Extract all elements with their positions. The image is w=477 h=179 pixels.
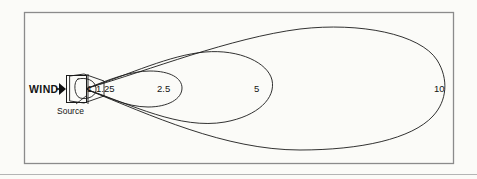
contour-label-1.25: 1.25: [96, 83, 115, 94]
contour-label-2.5: 2.5: [157, 83, 170, 94]
source-label: Source: [57, 106, 84, 116]
contour-label-10: 10: [434, 83, 445, 94]
contour-plot-svg: WIND Source 1 1.25 2.5 5 10: [0, 0, 477, 179]
figure-container: WIND Source 1 1.25 2.5 5 10: [0, 0, 477, 179]
contour-line-5: [88, 52, 273, 124]
contour-line-10: [88, 27, 445, 150]
contour-label-5: 5: [254, 83, 259, 94]
contour-line-1: [75, 78, 96, 98]
contour-label-1: 1: [87, 83, 92, 94]
wind-label: WIND: [29, 83, 59, 95]
